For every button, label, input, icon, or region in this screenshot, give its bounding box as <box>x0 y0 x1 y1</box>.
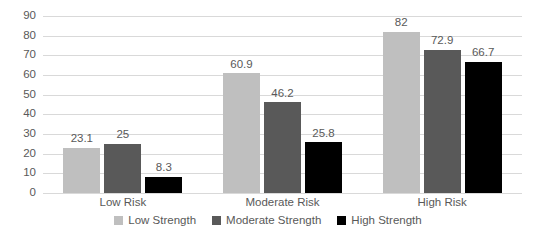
y-axis-tick-label: 30 <box>0 128 36 140</box>
y-axis-tick-label: 10 <box>0 168 36 180</box>
y-axis-tick-label: 40 <box>0 109 36 121</box>
bar-group: 8272.966.7 <box>43 16 522 193</box>
category-label: High Risk <box>418 195 467 209</box>
y-axis: 0102030405060708090 <box>0 16 36 193</box>
gridline <box>43 193 522 194</box>
y-axis-tick-label: 90 <box>0 10 36 22</box>
bar-value-label: 72.9 <box>431 35 453 47</box>
chart-legend: Low StrengthModerate StrengthHigh Streng… <box>0 214 536 226</box>
category-label: Low Risk <box>100 195 147 209</box>
category-label: Moderate Risk <box>245 195 319 209</box>
legend-item[interactable]: Low Strength <box>114 214 196 226</box>
bars-layer: 23.1258.360.946.225.88272.966.7 <box>43 16 522 193</box>
y-axis-tick-label: 20 <box>0 148 36 160</box>
legend-item[interactable]: High Strength <box>337 214 421 226</box>
legend-label: Moderate Strength <box>226 214 321 226</box>
bar-value-label: 66.7 <box>472 47 494 59</box>
bar <box>424 50 461 193</box>
bar <box>383 32 420 193</box>
y-axis-tick-label: 0 <box>0 187 36 199</box>
bar-value-label: 82 <box>395 17 408 29</box>
y-axis-tick-label: 60 <box>0 69 36 81</box>
y-axis-tick-label: 50 <box>0 89 36 101</box>
legend-swatch-icon <box>114 216 123 225</box>
y-axis-tick-label: 70 <box>0 50 36 62</box>
legend-label: High Strength <box>351 214 421 226</box>
legend-label: Low Strength <box>128 214 196 226</box>
category-axis: Low RiskModerate RiskHigh Risk <box>43 195 522 211</box>
bar <box>465 62 502 193</box>
bar-chart: 0102030405060708090 23.1258.360.946.225.… <box>0 0 536 237</box>
y-axis-tick-label: 80 <box>0 30 36 42</box>
legend-swatch-icon <box>337 216 346 225</box>
legend-item[interactable]: Moderate Strength <box>212 214 321 226</box>
legend-swatch-icon <box>212 216 221 225</box>
